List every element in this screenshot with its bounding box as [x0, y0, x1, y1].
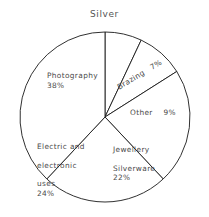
slice-label-jewellery-line1: Jewellery	[113, 145, 150, 154]
pie-chart: Silver Photography 38% Brazing 7% Other …	[0, 0, 209, 217]
slice-label-electric-line2: electronic	[37, 161, 77, 170]
slice-value-electric-and-electronic-uses: 24%	[37, 189, 85, 198]
slice-value-jewellery-silverware: 22%	[113, 173, 155, 182]
slice-value-other: 9%	[163, 108, 175, 117]
slice-label-other: Other 9%	[130, 108, 176, 117]
slice-label-other-text: Other	[130, 108, 153, 117]
slice-value-photography: 38%	[47, 81, 98, 90]
slice-label-photography-text: Photography	[47, 71, 98, 80]
slice-label-electric-and-electronic-uses: Electric and electronic uses 24%	[37, 133, 85, 207]
slice-label-photography: Photography 38%	[47, 62, 98, 99]
slice-label-jewellery-line2: Silverware	[113, 164, 155, 173]
slice-label-electric-line1: Electric and	[37, 142, 85, 151]
slice-label-jewellery-silverware: Jewellery Silverware 22%	[113, 136, 155, 192]
slice-label-electric-line3: uses	[37, 179, 55, 188]
pie-svg	[0, 0, 209, 217]
